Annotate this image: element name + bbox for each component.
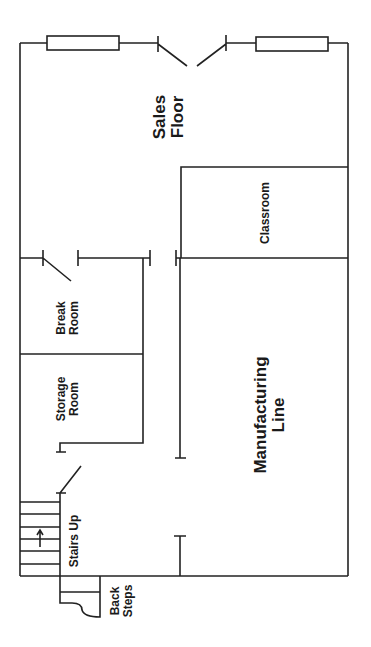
storage-text: Storage xyxy=(55,377,68,422)
corridor-wall-left xyxy=(56,258,143,452)
stairs-up-text: Stairs Up xyxy=(68,515,81,568)
storage-room-label: Storage Room xyxy=(55,377,80,422)
floor-label-line2: Floor xyxy=(169,95,187,139)
window-right xyxy=(256,37,328,51)
break-room-top-wall-2 xyxy=(78,250,150,266)
room-text: Room xyxy=(68,377,81,422)
window-left xyxy=(47,36,119,50)
door-left xyxy=(158,36,187,66)
sales-label-line1: Sales xyxy=(151,95,169,139)
room-text: Room xyxy=(68,301,81,335)
back-steps-label: Back Steps xyxy=(109,585,134,618)
manufacturing-line-label: Manufacturing Line xyxy=(252,356,288,473)
classroom-text: Classroom xyxy=(259,182,272,244)
door-right xyxy=(197,35,226,66)
back-text: Back xyxy=(109,585,122,618)
break-text: Break xyxy=(55,301,68,335)
break-room-label: Break Room xyxy=(55,301,80,335)
manufacturing-text: Manufacturing xyxy=(252,356,270,473)
manufacturing-partial-wall xyxy=(174,536,186,576)
break-room-top-wall xyxy=(20,250,71,281)
steps-text: Steps xyxy=(122,585,135,618)
stairs-up-label: Stairs Up xyxy=(68,515,81,568)
classroom-label: Classroom xyxy=(259,182,272,244)
line-text: Line xyxy=(270,356,288,473)
sales-floor-label: Sales Floor xyxy=(151,95,187,139)
back-steps xyxy=(60,576,100,617)
corridor-wall-right xyxy=(175,258,186,458)
